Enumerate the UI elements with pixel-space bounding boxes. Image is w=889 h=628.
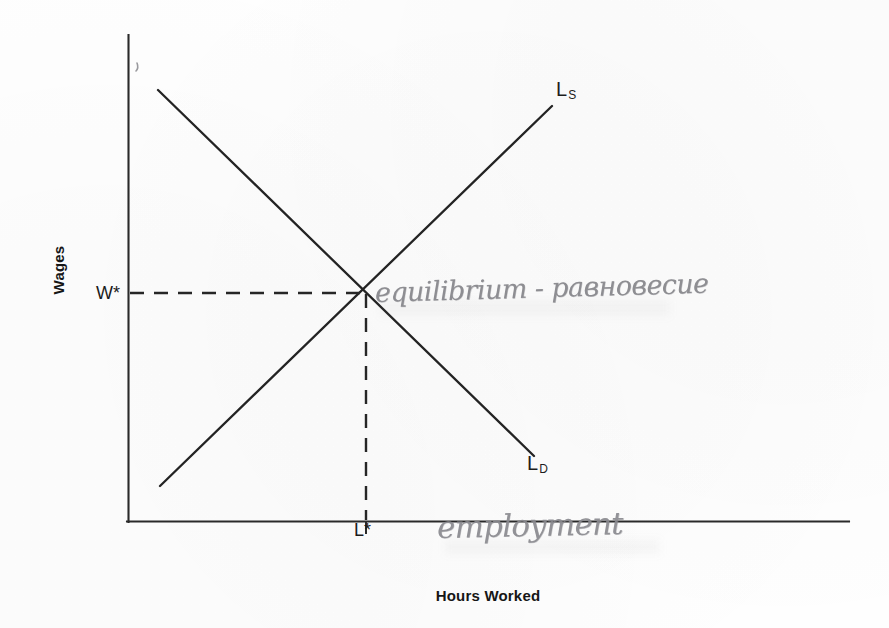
labour-demand-label-sub: D	[539, 462, 548, 476]
labour-supply-label-sub: S	[568, 88, 576, 102]
labour-supply-curve-label: LS	[556, 79, 575, 99]
stray-pencil-mark	[136, 63, 138, 71]
labour-demand-curve	[158, 90, 534, 456]
labour-demand-label-main: L	[527, 452, 538, 474]
labour-supply-label-main: L	[556, 78, 567, 100]
labour-demand-curve-label: LD	[527, 453, 547, 473]
handwritten-employment-annotation: employment	[437, 508, 623, 543]
y-axis-title: Wages	[51, 246, 66, 295]
x-axis-title: Hours Worked	[436, 588, 541, 603]
scanned-diagram-page: Wages Hours Worked W* L* LS LD equilibri…	[0, 0, 889, 628]
x-axis-tick-label-l-star: L*	[354, 521, 371, 539]
y-axis-tick-label-w-star: W*	[96, 284, 120, 302]
